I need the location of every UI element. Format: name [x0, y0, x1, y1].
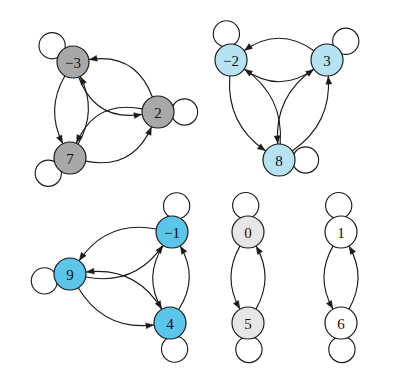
node-label-n3: 3 [323, 53, 331, 69]
node-label-n6: 6 [337, 316, 345, 332]
node-n3[interactable]: 3 [311, 44, 343, 76]
node-n6[interactable]: 6 [325, 307, 357, 339]
node-label-n5: 5 [244, 316, 252, 332]
node-n0[interactable]: 0 [232, 216, 264, 248]
node-n5[interactable]: 5 [232, 307, 264, 339]
node-label-n8: 8 [275, 153, 283, 169]
node-label-n9: 9 [66, 267, 74, 283]
node-label-n2: 2 [154, 105, 162, 121]
node-label-n7: 7 [66, 151, 74, 167]
graph-canvas: −327−238−1940516 [0, 0, 393, 384]
node-label-n-2: −2 [223, 53, 239, 69]
node-label-n-1: −1 [164, 225, 180, 241]
node-label-n4: 4 [166, 316, 174, 332]
node-label-n0: 0 [244, 225, 252, 241]
node-n9[interactable]: 9 [54, 258, 86, 290]
node-n-1[interactable]: −1 [156, 216, 188, 248]
graph-figure: −327−238−1940516 [0, 0, 393, 384]
node-n7[interactable]: 7 [54, 142, 86, 174]
node-n8[interactable]: 8 [263, 144, 295, 176]
node-label-n1: 1 [337, 225, 345, 241]
node-label-n-3: −3 [65, 55, 81, 71]
node-n-2[interactable]: −2 [215, 44, 247, 76]
node-n4[interactable]: 4 [154, 307, 186, 339]
node-n2[interactable]: 2 [142, 96, 174, 128]
node-n1[interactable]: 1 [325, 216, 357, 248]
node-n-3[interactable]: −3 [57, 46, 89, 78]
